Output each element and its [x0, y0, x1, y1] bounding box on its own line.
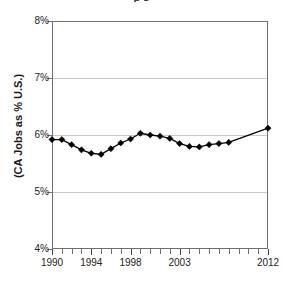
y-tick-label: 5% — [21, 187, 49, 197]
x-tick-mark — [170, 249, 171, 254]
x-tick-mark-major — [52, 249, 53, 255]
chart-container: p s (CA Jobs as % U.S.) 8%7%6%5%4% 19901… — [0, 0, 283, 283]
y-tick-label: 7% — [21, 73, 49, 83]
x-tick-mark — [160, 249, 161, 254]
gridline — [53, 192, 267, 193]
chart-title: p s — [0, 0, 283, 2]
x-tick-mark — [111, 249, 112, 254]
x-tick-mark — [62, 249, 63, 254]
x-tick-mark — [189, 249, 190, 254]
x-tick-mark-major — [91, 249, 92, 255]
y-tick-label: 6% — [21, 130, 49, 140]
x-tick-mark — [81, 249, 82, 254]
x-tick-mark — [258, 249, 259, 254]
y-tick-label: 4% — [21, 244, 49, 254]
x-tick-mark — [199, 249, 200, 254]
y-tick-label: 8% — [21, 16, 49, 26]
x-tick-mark — [239, 249, 240, 254]
x-tick-label: 2012 — [248, 257, 283, 268]
x-tick-mark — [121, 249, 122, 254]
y-axis-title: (CA Jobs as % U.S.) — [12, 46, 24, 206]
x-tick-mark — [248, 249, 249, 254]
x-tick-mark — [140, 249, 141, 254]
x-tick-label: 1994 — [71, 257, 111, 268]
x-tick-mark-major — [180, 249, 181, 255]
x-tick-mark — [72, 249, 73, 254]
x-tick-mark-major — [268, 249, 269, 255]
x-tick-mark — [209, 249, 210, 254]
plot-area — [52, 21, 268, 249]
gridline — [53, 135, 267, 136]
x-tick-mark — [101, 249, 102, 254]
x-tick-label: 1998 — [111, 257, 151, 268]
x-tick-mark — [150, 249, 151, 254]
x-tick-mark — [219, 249, 220, 254]
x-tick-mark — [229, 249, 230, 254]
x-tick-mark-major — [131, 249, 132, 255]
gridline — [53, 78, 267, 79]
x-tick-label: 1990 — [32, 257, 72, 268]
x-tick-label: 2003 — [160, 257, 200, 268]
